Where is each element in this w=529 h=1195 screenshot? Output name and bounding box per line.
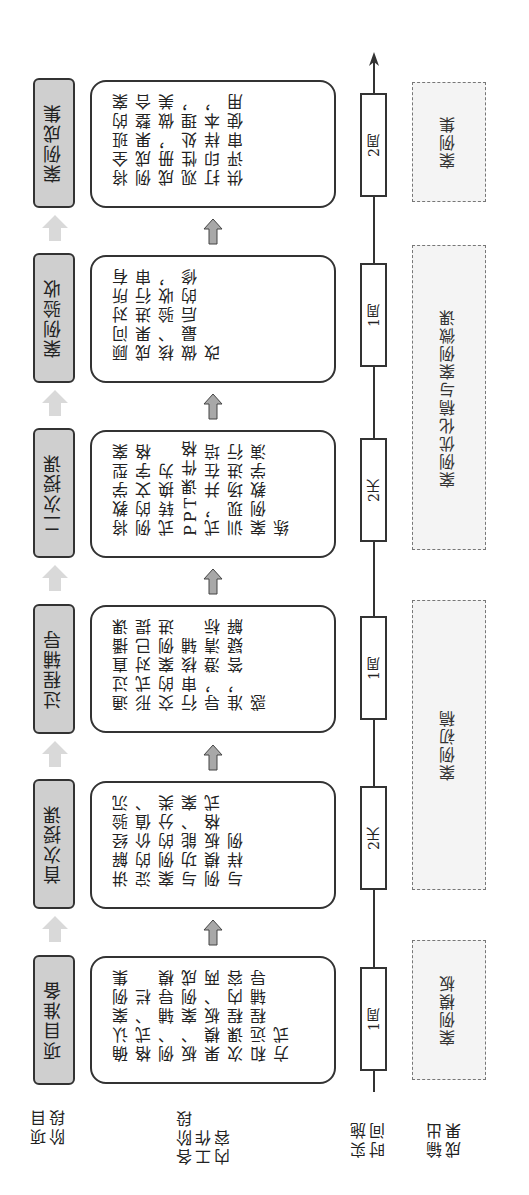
timeline-axis (373, 62, 375, 1092)
stage-content-case-acceptance: 顾问对所有成果进行审核、验收，做最后的修改 (90, 255, 336, 383)
stage-content-process-coaching: 通过直播课形式对已提交的案例进行审核辅导，澄清标准，答疑解惑 (90, 605, 336, 733)
stage-up-arrow-icon (40, 739, 70, 769)
output-first-draft: 案例初稿 (412, 600, 486, 890)
stage-label-second-lecture: 二次授课 (33, 428, 75, 558)
stage-content-second-lecture: 将教学型案例的文字格式转换为PPT课件格式，并在培训现场进行案例教学演练 (90, 430, 336, 558)
stage-up-arrow-icon (40, 388, 70, 418)
time-box-case-collection: 2周 (360, 93, 387, 197)
stage-label-first-lecture: 首次授课 (33, 779, 75, 909)
time-box-project-prep: 1周 (360, 967, 387, 1071)
stage-content-first-lecture: 讲解经验沉淀的价值、案例的分类与功能、案例模板格式与样例 (90, 781, 336, 909)
output-case-template: 案例模板 (412, 940, 486, 1080)
stage-up-arrow-icon (40, 914, 70, 944)
time-box-second-lecture: 2天 (360, 438, 387, 542)
output-optimized-draft-and-microcourse: 案例优化稿与案例微课 (412, 245, 486, 550)
time-box-case-acceptance: 1周 (360, 263, 387, 367)
content-up-arrow-icon (202, 744, 224, 772)
content-up-arrow-icon (202, 919, 224, 947)
content-up-arrow-icon (202, 218, 224, 246)
stage-label-case-acceptance: 案例验收 (33, 253, 75, 383)
stage-label-case-collection: 案例成集 (33, 78, 75, 208)
stage-content-text: 讲解经验沉淀的价值、案例的分类与功能、案例模板格式与样例 (110, 791, 248, 887)
stage-label-project-prep: 项目准备 (33, 955, 75, 1085)
stage-content-text: 将教学型案例的文字格式转换为PPT课件格式，并在培训现场进行案例教学演练 (110, 436, 294, 536)
row-label-time: 实施 时间 (350, 1118, 388, 1158)
row-label-stage: 项目 阶段 (30, 1105, 68, 1145)
timeline-arrowhead-icon (366, 52, 382, 68)
stage-up-arrow-icon (40, 213, 70, 243)
time-box-first-lecture: 2天 (360, 786, 387, 890)
time-box-process-coaching: 1周 (360, 616, 387, 720)
stage-content-text: 确认案例集格式、栏例、辅导模板、案例成果模板、两次课程内容和远程辅导方式 (110, 962, 294, 1062)
stage-up-arrow-icon (40, 563, 70, 593)
content-up-arrow-icon (202, 393, 224, 421)
content-up-arrow-icon (202, 568, 224, 596)
stage-content-case-collection: 将全班的案例成果整合成册，做美观性处理，打印样本，供评审使用 (90, 80, 336, 208)
row-label-output: 输出 成果 (426, 1118, 464, 1158)
stage-content-text: 通过直播课形式对已提交的案例进行审核辅导，澄清标准，答疑解惑 (110, 615, 271, 711)
stage-label-process-coaching: 过程辅导 (33, 604, 75, 734)
stage-content-text: 顾问对所有成果进行审核、验收，做最后的修改 (110, 265, 225, 361)
stage-content-text: 将全班的案例成果整合成册，做美观性处理，打印样本，供评审使用 (110, 90, 248, 186)
row-label-work: 各阶段 工作 内容 (176, 1105, 233, 1165)
stage-content-project-prep: 确认案例集格式、栏例、辅导模板、案例成果模板、两次课程内容和远程辅导方式 (90, 956, 336, 1084)
output-case-collection: 案例集 (412, 82, 486, 202)
